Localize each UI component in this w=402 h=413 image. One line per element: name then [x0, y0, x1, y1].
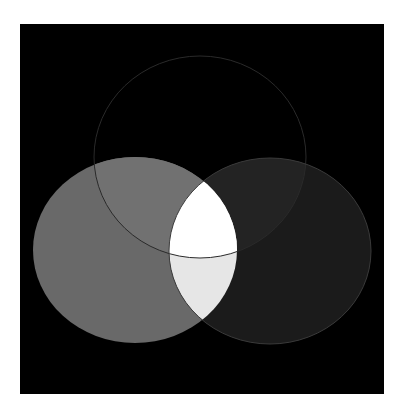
venn-diagram	[0, 0, 402, 413]
venn-diagram-svg	[0, 0, 402, 413]
